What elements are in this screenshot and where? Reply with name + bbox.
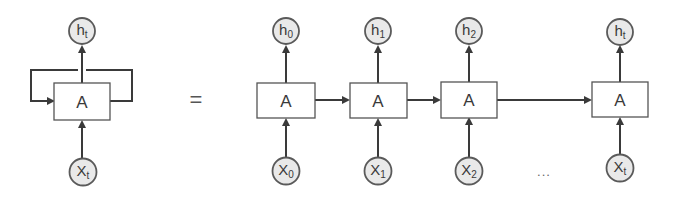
input-base-2: X	[461, 161, 471, 178]
ellipsis: ...	[537, 165, 551, 178]
unrolled-rnn	[257, 18, 648, 185]
input-base-t: X	[614, 158, 624, 175]
rolled-input-label: Xt	[77, 163, 90, 181]
input-label-1: X1	[370, 162, 386, 180]
output-sub-1: 1	[379, 29, 385, 40]
cell-label-t: A	[614, 92, 625, 109]
output-sub-0: 0	[287, 29, 293, 40]
input-base-0: X	[278, 161, 288, 178]
output-sub-t: t	[623, 30, 626, 41]
input-sub-t: t	[624, 166, 627, 177]
rolled-output-sub: t	[85, 29, 88, 40]
output-label-2: h2	[462, 22, 476, 40]
output-label-1: h1	[371, 22, 385, 40]
input-label-t: Xt	[614, 159, 627, 177]
cell-label-1: A	[372, 93, 383, 110]
input-sub-2: 2	[471, 169, 477, 180]
input-sub-1: 1	[380, 169, 386, 180]
rolled-cell-label: A	[76, 94, 87, 111]
input-label-0: X0	[278, 162, 294, 180]
diagram-graphics	[0, 0, 676, 202]
input-label-2: X2	[461, 162, 477, 180]
output-sub-2: 2	[470, 29, 476, 40]
input-sub-0: 0	[288, 169, 294, 180]
rolled-output-label: ht	[76, 22, 87, 40]
output-label-0: h0	[279, 22, 293, 40]
input-base-1: X	[370, 161, 380, 178]
rolled-input-base: X	[77, 162, 87, 179]
rnn-diagram: A ht Xt = A h0 X0 A h1 X1 A h2 X2 A ht X…	[0, 0, 676, 202]
output-label-t: ht	[614, 23, 625, 41]
equals-sign: =	[190, 89, 203, 111]
cell-label-2: A	[463, 92, 474, 109]
cell-label-0: A	[280, 93, 291, 110]
rolled-input-sub: t	[87, 170, 90, 181]
